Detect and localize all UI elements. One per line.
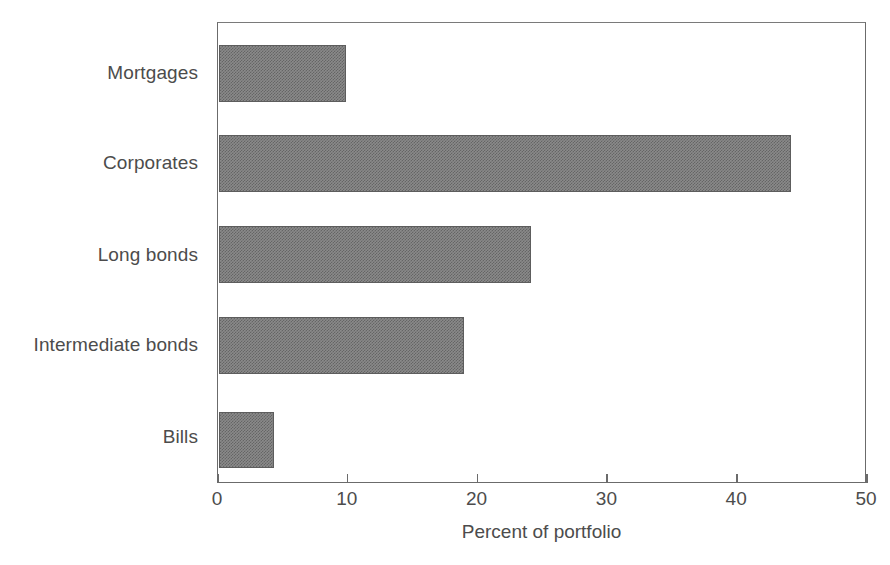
bar-mortgages bbox=[219, 45, 346, 102]
x-axis-title: Percent of portfolio bbox=[217, 522, 866, 541]
x-tick-label: 40 bbox=[726, 489, 747, 508]
bar-long-bonds bbox=[219, 226, 531, 283]
category-label-corporates: Corporates bbox=[103, 153, 198, 172]
category-label-bills: Bills bbox=[163, 427, 198, 446]
x-tick-mark bbox=[477, 474, 479, 483]
x-tick-mark bbox=[736, 474, 738, 483]
x-axis: 0 10 20 30 40 50 bbox=[217, 483, 866, 484]
x-tick-label: 0 bbox=[212, 489, 223, 508]
plot-area bbox=[217, 22, 866, 483]
bar-corporates bbox=[219, 135, 791, 192]
bar-intermediate-bonds bbox=[219, 317, 464, 374]
x-tick-label: 10 bbox=[336, 489, 357, 508]
category-label-intermediate-bonds: Intermediate bonds bbox=[34, 335, 198, 354]
x-tick-label: 20 bbox=[466, 489, 487, 508]
x-tick-mark bbox=[866, 474, 868, 483]
x-tick-mark bbox=[347, 474, 349, 483]
bar-bills bbox=[219, 412, 274, 468]
category-label-mortgages: Mortgages bbox=[107, 63, 198, 82]
category-label-long-bonds: Long bonds bbox=[98, 245, 198, 264]
x-tick-mark bbox=[217, 474, 219, 483]
x-tick-mark bbox=[606, 474, 608, 483]
bar-chart: Mortgages Corporates Long bonds Intermed… bbox=[0, 0, 890, 565]
x-tick-label: 30 bbox=[596, 489, 617, 508]
x-tick-label: 50 bbox=[855, 489, 876, 508]
